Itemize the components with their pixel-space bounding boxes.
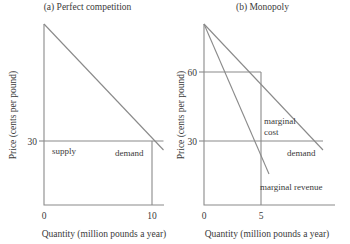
chart-b-ytick-60-label: 60 <box>188 68 198 78</box>
panel-perfect-competition: (a) Perfect competition 30 0 10 supply d… <box>0 0 175 244</box>
chart-b-xtick-0-label: 0 <box>202 211 207 221</box>
chart-b-svg: 60 30 0 5 marginal cost demand marginal … <box>175 0 350 244</box>
chart-b-demand-label: demand <box>287 148 316 158</box>
figure-container: (a) Perfect competition 30 0 10 supply d… <box>0 0 350 244</box>
chart-b-xtick-5-label: 5 <box>259 211 264 221</box>
chart-a-demand-label: demand <box>115 148 144 158</box>
chart-a-ytick-30-label: 30 <box>28 137 38 147</box>
chart-a-svg: 30 0 10 supply demand Quantity (million … <box>0 0 175 244</box>
chart-b-marginal-revenue-curve <box>204 24 269 174</box>
chart-b-marginal-cost-label-line2: cost <box>264 127 279 137</box>
chart-a-yaxis-title: Price (cents per pound) <box>8 71 19 159</box>
chart-a-xaxis-title: Quantity (million pounds a year) <box>42 229 167 240</box>
chart-b-xaxis-title: Quantity (million pounds a year) <box>205 229 330 240</box>
chart-b-marginal-cost-label-line1: marginal <box>264 116 296 126</box>
chart-a-axes <box>44 24 164 205</box>
chart-a-xtick-10-label: 10 <box>147 211 157 221</box>
chart-b-ytick-30-label: 30 <box>188 137 198 147</box>
chart-b-marginal-revenue-label: marginal revenue <box>260 182 323 192</box>
chart-a-demand-curve <box>44 24 164 150</box>
panel-monopoly: (b) Monopoly 60 30 0 5 marginal <box>175 0 350 244</box>
chart-a-xtick-0-label: 0 <box>42 211 47 221</box>
chart-a-supply-label: supply <box>52 146 77 156</box>
chart-b-yaxis-title: Price (cents per pound) <box>176 71 187 159</box>
chart-b-axes <box>204 24 335 205</box>
